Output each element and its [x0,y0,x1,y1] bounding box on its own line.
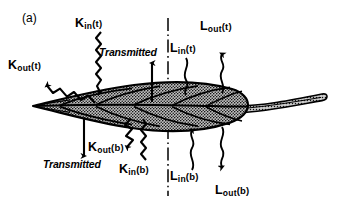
label-l-out-t-sub: out [208,24,222,34]
label-k-in-t-arg: (t) [92,18,102,29]
label-k-in-t-sub: in [84,21,92,31]
flux-arrow-l-out-b [221,127,224,167]
label-k-out-b: Kout(b) [88,141,124,154]
label-k-out-b-sub: out [97,145,111,155]
label-l-in-b-sub: in [178,174,186,184]
label-l-out-b: Lout(b) [215,184,249,197]
panel-label: (a) [22,12,37,24]
label-k-out-t-base: K [8,58,17,72]
label-l-in-b: Lin(b) [170,170,199,183]
label-l-in-b-base: L [170,169,178,183]
label-l-in-t-sub: in [178,46,186,56]
label-k-in-b-sub: in [128,167,136,177]
leaf-blade [33,82,327,131]
label-l-out-b-base: L [215,183,223,197]
label-l-out-b-sub: out [223,188,237,198]
label-k-in-b: Kin(b) [119,163,149,176]
label-k-in-b-base: K [119,162,128,176]
leaf-energy-flux-diagram [0,0,340,216]
label-l-out-t-arg: (t) [222,21,232,32]
label-l-in-t-base: L [170,41,178,55]
label-l-out-b-arg: (b) [237,185,250,196]
label-k-out-b-base: K [88,140,97,154]
label-k-in-t: Kin(t) [75,17,102,30]
label-transmitted-bottom: Transmitted [43,159,101,170]
label-transmitted-top: Transmitted [99,47,157,58]
flux-arrow-l-in-b [191,130,194,170]
label-k-out-t-arg: (t) [31,60,41,71]
label-l-in-t-arg: (t) [186,43,196,54]
label-k-in-b-arg: (b) [136,164,149,175]
label-l-in-t: Lin(t) [170,42,196,55]
flux-arrow-k-in-t [96,32,101,92]
label-k-out-t: Kout(t) [8,59,41,72]
label-k-out-b-arg: (b) [111,142,124,153]
label-k-out-t-sub: out [17,63,31,73]
label-k-in-t-base: K [75,16,84,30]
label-l-out-t-base: L [200,19,208,33]
label-l-out-t: Lout(t) [200,20,232,33]
label-l-in-b-arg: (b) [186,171,199,182]
